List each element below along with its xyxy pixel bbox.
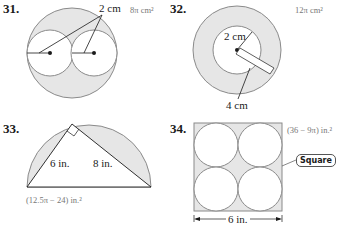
problem-33-answer: (12.5π − 24) in.² [26,195,82,205]
problem-32-label-inner: 2 cm [224,30,246,42]
problem-32-answer: 12π cm² [295,5,323,15]
problem-34-label-side: 6 in. [228,213,248,225]
figure-33 [27,124,151,187]
problem-32-number: 32. [170,1,186,17]
problem-33-label-8in: 8 in. [93,157,113,169]
problem-33-label-6in: 6 in. [50,157,70,169]
figure-31 [27,8,117,98]
problem-34-number: 34. [170,121,186,137]
figure-34 [194,123,296,222]
problem-34-answer: (36 − 9π) in.² [287,125,332,135]
square-callout: Square [296,154,336,167]
figure-32 [193,6,281,99]
problem-31-number: 31. [3,1,19,17]
problem-32-label-outer: 4 cm [226,99,248,111]
problem-31-label-radius: 2 cm [99,2,121,14]
problem-33-number: 33. [3,121,19,137]
problem-31-answer: 8π cm² [130,5,154,15]
